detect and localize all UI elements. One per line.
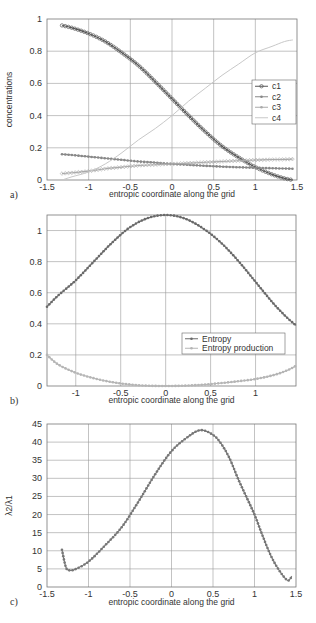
marker-dot xyxy=(148,384,151,387)
marker-dot xyxy=(111,241,114,244)
legend: c1c2c3c4 xyxy=(252,80,296,124)
marker-dot xyxy=(64,153,67,156)
marker-dot xyxy=(53,298,56,301)
marker-dot xyxy=(157,467,160,470)
y-tick-label: 0.4 xyxy=(29,319,42,329)
marker-dot xyxy=(210,432,213,435)
marker-dot xyxy=(46,305,49,308)
marker-dot xyxy=(252,510,255,513)
marker-dot xyxy=(200,383,203,386)
marker-dot xyxy=(150,479,153,482)
marker-dot xyxy=(130,512,133,515)
marker-dot xyxy=(91,557,94,560)
marker-dot xyxy=(204,383,207,386)
marker-dot xyxy=(222,165,225,168)
marker-dot xyxy=(53,360,56,363)
marker-dot xyxy=(204,430,207,433)
marker-dot xyxy=(80,155,83,158)
legend-label: c3 xyxy=(272,102,281,112)
marker-dot xyxy=(281,312,284,315)
marker-dot xyxy=(116,531,119,534)
marker-dot xyxy=(90,156,93,159)
marker-dot xyxy=(152,476,155,479)
chart-panel-c: -1.5-1-0.500.511.5051015202530354045entr… xyxy=(4,419,302,608)
marker-dot xyxy=(93,555,96,558)
marker-dot xyxy=(258,167,261,170)
marker-dot xyxy=(214,382,217,385)
marker-dot xyxy=(65,568,68,571)
marker-dot xyxy=(211,234,214,237)
marker-dot xyxy=(80,373,83,376)
x-tick-label: -1 xyxy=(85,182,93,192)
marker-dot xyxy=(166,214,169,217)
marker-dot xyxy=(279,570,282,573)
y-tick-label: 1 xyxy=(37,226,42,236)
marker-dot xyxy=(142,493,145,496)
marker-dot xyxy=(241,486,244,489)
marker-dot xyxy=(173,214,176,217)
marker-dot xyxy=(240,380,243,383)
marker-dot xyxy=(126,518,129,521)
marker-dot xyxy=(287,579,290,582)
marker-dot xyxy=(173,446,176,449)
marker-dot xyxy=(255,166,258,169)
marker-dot xyxy=(131,383,134,386)
marker-dot xyxy=(130,159,133,162)
marker-dot xyxy=(131,510,134,513)
marker-dot xyxy=(71,569,74,572)
marker-dot xyxy=(255,519,258,522)
marker-dot xyxy=(245,269,248,272)
y-tick-label: 25 xyxy=(32,491,42,501)
marker-dot xyxy=(197,224,200,227)
marker-dot xyxy=(223,447,226,450)
marker-dot xyxy=(238,480,241,483)
plot-area xyxy=(47,215,296,386)
y-tick-label: 0.8 xyxy=(29,46,42,56)
marker-dot xyxy=(64,565,67,568)
marker-dot xyxy=(77,276,80,279)
marker-dot xyxy=(74,154,77,157)
marker-dot xyxy=(128,383,131,386)
marker-dot xyxy=(120,526,123,529)
marker-dot xyxy=(264,292,267,295)
marker-dot xyxy=(63,561,66,564)
marker-dot xyxy=(256,377,259,380)
marker-dot xyxy=(219,441,222,444)
x-tick-label: 1.5 xyxy=(290,589,303,599)
marker-dot xyxy=(197,384,200,387)
marker-dot xyxy=(277,567,280,570)
chart-panel-b: -1-0.500.5100.20.40.60.81entropic coordi… xyxy=(10,214,296,407)
marker-dot xyxy=(83,374,86,377)
marker-dot xyxy=(135,504,138,507)
marker-dot xyxy=(143,161,146,164)
marker-dot xyxy=(279,309,282,312)
marker-dot xyxy=(208,231,211,234)
y-axis-label: λ2/λ1 xyxy=(4,495,14,516)
marker-dot xyxy=(126,159,129,162)
y-tick-label: 0.6 xyxy=(29,78,42,88)
marker-dot xyxy=(67,153,70,156)
marker-dot xyxy=(93,260,96,263)
marker-dot xyxy=(140,160,143,163)
marker-dot xyxy=(255,282,258,285)
marker-dot xyxy=(213,236,216,239)
legend-marker xyxy=(260,95,263,98)
marker-dot xyxy=(258,525,261,528)
marker-dot xyxy=(217,382,220,385)
marker-dot xyxy=(118,382,121,385)
marker-dot xyxy=(102,545,105,548)
marker-dot xyxy=(176,215,179,218)
marker-dot xyxy=(133,160,136,163)
marker-dot xyxy=(123,159,126,162)
marker-dot xyxy=(144,384,147,387)
marker-dot xyxy=(144,218,147,221)
x-tick-label: -1 xyxy=(72,388,80,398)
marker-dot xyxy=(168,385,171,388)
marker-dot xyxy=(102,379,105,382)
marker-dot xyxy=(273,562,276,565)
marker-dot xyxy=(61,552,64,555)
x-tick-label: 1 xyxy=(252,589,257,599)
marker-dot xyxy=(73,371,76,374)
marker-dot xyxy=(232,254,235,257)
marker-dot xyxy=(176,444,179,447)
